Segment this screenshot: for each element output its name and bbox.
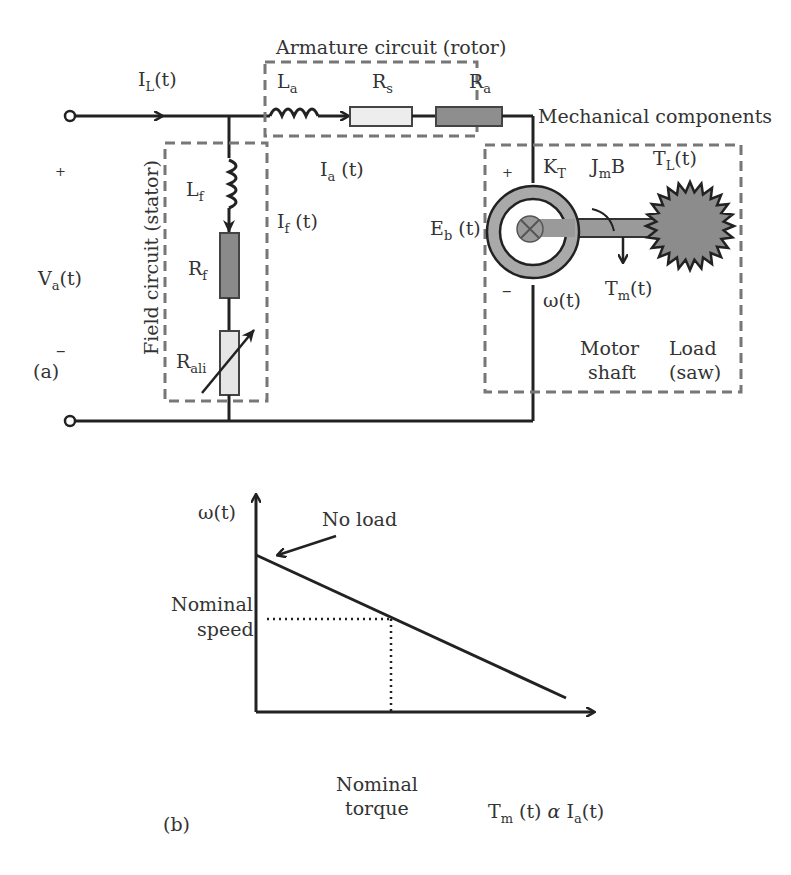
label-jmb: JmB bbox=[589, 155, 625, 181]
label-kt: KT bbox=[543, 155, 566, 181]
panel-label-b: (b) bbox=[163, 813, 190, 835]
armature-title: Armature circuit (rotor) bbox=[275, 36, 506, 58]
nominal-torque-label-2: torque bbox=[345, 797, 409, 819]
resistor-rali bbox=[220, 331, 239, 395]
speed-torque-chart bbox=[256, 495, 594, 712]
label-rali: Rali bbox=[176, 350, 206, 376]
label-rs: Rs bbox=[372, 70, 393, 96]
label-if: If (t) bbox=[277, 210, 318, 236]
label-omega: ω(t) bbox=[543, 289, 581, 311]
dc-motor-figure: Armature circuit (rotor) Mechanical comp… bbox=[0, 0, 791, 875]
resistor-ra bbox=[436, 107, 502, 126]
terminal-top bbox=[65, 111, 75, 121]
resistor-rs bbox=[350, 107, 412, 126]
resistor-rf bbox=[220, 233, 239, 298]
label-load-1: Load bbox=[669, 337, 717, 359]
panel-label-a: (a) bbox=[33, 360, 59, 382]
inductor-lf bbox=[229, 160, 236, 208]
label-la: La bbox=[277, 70, 298, 96]
terminal-bottom bbox=[65, 416, 75, 426]
label-ia: Ia (t) bbox=[320, 158, 364, 184]
label-load-2: (saw) bbox=[669, 361, 721, 383]
label-motor-shaft-2: shaft bbox=[588, 361, 636, 383]
inductor-la bbox=[270, 109, 318, 116]
label-il: IL(t) bbox=[138, 68, 177, 94]
label-tm: Tm(t) bbox=[605, 277, 652, 303]
label-rf: Rf bbox=[188, 257, 208, 283]
label-eb: Eb (t) bbox=[430, 217, 481, 243]
speed-torque-line bbox=[256, 555, 566, 698]
label-tl: TL(t) bbox=[653, 147, 697, 173]
plus-sign-left: + bbox=[55, 164, 66, 179]
field-title: Field circuit (stator) bbox=[140, 160, 162, 355]
no-load-label: No load bbox=[322, 508, 397, 530]
mechanical-title: Mechanical components bbox=[538, 105, 772, 127]
y-axis-label: ω(t) bbox=[198, 501, 236, 523]
x-axis-label: Tm (t) α Ia(t) bbox=[488, 800, 604, 826]
nominal-speed-label-2: speed bbox=[197, 618, 254, 640]
plus-sign-motor: + bbox=[502, 165, 513, 180]
nominal-torque-label-1: Nominal bbox=[336, 773, 418, 795]
minus-sign-motor: – bbox=[502, 279, 512, 301]
nominal-speed-label-1: Nominal bbox=[171, 593, 253, 615]
label-ra: Ra bbox=[469, 70, 491, 96]
no-load-arrow bbox=[278, 536, 336, 555]
label-va: Va(t) bbox=[37, 267, 82, 293]
label-motor-shaft-1: Motor bbox=[580, 337, 640, 359]
minus-sign-left: – bbox=[56, 339, 66, 361]
label-lf: Lf bbox=[186, 178, 205, 204]
saw-blade-icon bbox=[646, 182, 734, 270]
